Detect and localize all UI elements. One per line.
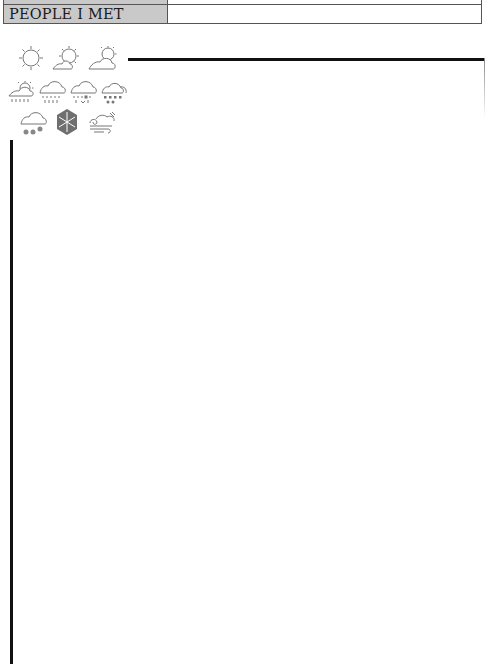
sleet-icon[interactable]	[68, 79, 98, 106]
rain-icon[interactable]	[37, 79, 67, 106]
right-margin-line	[484, 58, 485, 118]
windy-icon[interactable]	[86, 109, 118, 137]
header-row-people: PEOPLE I MET	[4, 5, 482, 24]
horizontal-divider	[128, 58, 485, 61]
people-i-met-label: PEOPLE I MET	[4, 5, 168, 24]
left-margin-line	[10, 140, 13, 664]
sun-showers-icon[interactable]	[5, 80, 37, 106]
header-table: PEOPLE I MET	[3, 0, 482, 24]
mostly-cloudy-sun-icon[interactable]	[86, 44, 118, 72]
sunny-icon[interactable]	[17, 44, 45, 72]
snow-icon[interactable]	[18, 110, 48, 136]
people-i-met-field[interactable]	[168, 5, 482, 24]
snowflake-icon[interactable]	[54, 108, 80, 136]
partly-sunny-icon[interactable]	[50, 44, 80, 72]
hail-icon[interactable]	[99, 79, 131, 106]
